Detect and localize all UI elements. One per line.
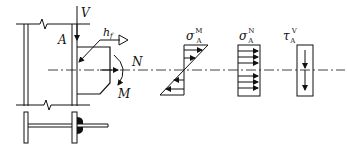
axial-stress-diagram	[238, 45, 260, 96]
bending-stress-label: σMA	[186, 27, 202, 45]
column-plan-section	[24, 112, 108, 143]
shear-force-arrow: V	[77, 6, 91, 40]
axial-force-label: N	[131, 55, 143, 69]
point-a-label: A	[57, 33, 67, 47]
connection-diagram: V A hf N M σMA	[0, 0, 347, 145]
shear-stress-diagram	[297, 45, 313, 96]
moment-label: M	[117, 87, 131, 101]
weld-size-label: hf	[103, 26, 114, 40]
shear-force-label: V	[81, 6, 91, 20]
column-elevation	[16, 19, 90, 110]
axial-stress-label: σNA	[239, 27, 254, 45]
weld-symbol	[79, 35, 128, 62]
weld-bead	[77, 117, 83, 134]
shear-stress-label: τVA	[283, 27, 298, 45]
